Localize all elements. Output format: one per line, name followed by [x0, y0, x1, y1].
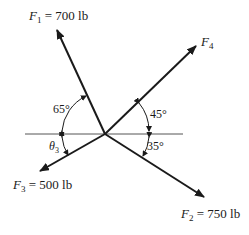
f1-symbol: F — [29, 8, 37, 23]
angle-label-35: 35° — [147, 140, 164, 152]
f4-subscript: 4 — [209, 41, 214, 51]
f2-symbol: F — [181, 206, 189, 221]
angle-label-65: 65° — [53, 103, 70, 115]
angle-arc-theta3 — [62, 137, 68, 155]
force-f2-label: F2 = 750 lb — [181, 207, 240, 223]
f1-value: = 700 lb — [41, 8, 88, 23]
angle-arc-45 — [139, 103, 149, 131]
force-f3-label: F3 = 500 lb — [13, 178, 72, 194]
force-f4-label: F4 — [201, 35, 213, 51]
theta-subscript: 3 — [55, 146, 59, 155]
force-f1-arrow — [57, 30, 105, 134]
angle-label-theta3: θ3 — [49, 140, 59, 155]
f2-value: = 750 lb — [193, 206, 240, 221]
f3-symbol: F — [13, 177, 21, 192]
force-f1-label: F1 = 700 lb — [29, 9, 88, 25]
angle-label-45: 45° — [150, 108, 167, 120]
f3-value: = 500 lb — [25, 177, 72, 192]
f4-symbol: F — [201, 34, 209, 49]
